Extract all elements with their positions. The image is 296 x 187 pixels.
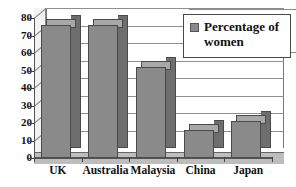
- legend-label: Percentage of women: [204, 19, 286, 50]
- bar: [136, 67, 166, 158]
- x-tick-label: China: [177, 165, 225, 177]
- bar-side-face: [166, 57, 176, 148]
- bar-chart: 01020304050607080 UKAustraliaMalaysiaChi…: [0, 0, 296, 187]
- bar-front-face: [136, 67, 166, 158]
- legend-swatch-icon: [190, 23, 199, 32]
- bar-front-face: [231, 121, 261, 158]
- x-tick-label: Malaysia: [129, 165, 177, 177]
- legend-entry: Percentage of women: [190, 19, 286, 50]
- x-tick-mark: [272, 157, 273, 162]
- x-tick-label: Japan: [224, 165, 272, 177]
- bar-side-face: [71, 15, 81, 148]
- x-tick-label: UK: [34, 165, 82, 177]
- bar: [88, 25, 118, 158]
- bar-side-face: [118, 15, 128, 148]
- bar-front-face: [184, 130, 214, 158]
- x-tick-mark: [129, 157, 130, 162]
- x-tick-mark: [177, 157, 178, 162]
- bar-front-face: [41, 25, 71, 158]
- bar: [184, 130, 214, 158]
- plot-floor-edge: [34, 158, 272, 159]
- chart-legend: Percentage of women: [183, 14, 291, 58]
- x-tick-mark: [34, 157, 35, 162]
- bar: [231, 121, 261, 158]
- bar: [41, 25, 71, 158]
- x-tick-mark: [82, 157, 83, 162]
- bar-front-face: [88, 25, 118, 158]
- x-tick-mark: [224, 157, 225, 162]
- x-axis: UKAustraliaMalaysiaChinaJapan: [34, 165, 284, 185]
- x-tick-label: Australia: [82, 165, 130, 177]
- y-axis: 01020304050607080: [0, 0, 32, 187]
